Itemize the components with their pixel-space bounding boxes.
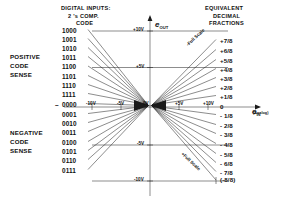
decimal-fraction-9: - 2/8 xyxy=(220,123,233,129)
decimal-fraction-4: +3/8 xyxy=(220,76,233,82)
code-leader-lines xyxy=(88,30,148,170)
digital-inputs-header-line3: CODE xyxy=(76,21,93,27)
decimal-fraction-3: +4/8 xyxy=(220,67,233,73)
digital-code-1111: 1111 xyxy=(62,92,76,98)
digital-code-0011: 0011 xyxy=(62,130,76,136)
negative-code-sense-line3: SENSE xyxy=(10,148,32,154)
zero-code-minus-marker: – xyxy=(55,102,59,108)
x-tick-0v: 0V xyxy=(143,102,149,107)
equivalent-header-line2: DECIMAL xyxy=(213,14,240,20)
digital-code-1001: 1001 xyxy=(62,37,77,43)
equivalent-header-line3: FRACTIONS xyxy=(209,21,244,27)
y-axis-subscript: OUT xyxy=(159,25,168,30)
digital-code-0010: 0010 xyxy=(62,121,77,127)
x-axis-analog-note: (Analog) xyxy=(253,112,268,116)
digital-inputs-header-line1: DIGITAL INPUTS: xyxy=(61,6,111,12)
digital-code-1000: 1000 xyxy=(62,28,77,34)
y-tick-minus5v: -5V xyxy=(137,142,144,147)
digital-code-0100: 0100 xyxy=(62,140,77,146)
positive-code-sense-line1: POSITIVE xyxy=(10,54,40,60)
y-tick-plus10v: +10V xyxy=(133,28,144,33)
equivalent-header-line1: EQUIVALENT xyxy=(205,6,243,12)
digital-code-0110: 0110 xyxy=(62,158,76,164)
negative-code-sense-line2: CODE xyxy=(10,139,29,145)
decimal-fraction-13: - 6/8 xyxy=(220,161,233,167)
x-tick-minus5v: -5V xyxy=(117,102,124,107)
decimal-fraction-8: - 1/8 xyxy=(220,113,233,119)
diagram-root: DIGITAL INPUTS: 2 's COMP. CODE EQUIVALE… xyxy=(0,0,287,202)
digital-code-0111: 0111 xyxy=(62,168,76,174)
digital-code-1110: 1110 xyxy=(62,83,76,89)
decimal-fraction-12: - 5/8 xyxy=(220,152,233,158)
digital-code-1010: 1010 xyxy=(62,46,77,52)
digital-code-0101: 0101 xyxy=(62,149,77,155)
decimal-fraction-5: +2/8 xyxy=(220,85,233,91)
fraction-minus-full-scale: (-8/8) xyxy=(220,177,235,183)
positive-code-sense-line2: CODE xyxy=(10,63,29,69)
decimal-fraction-14: - 7/8 xyxy=(220,170,233,176)
digital-code-0001: 0001 xyxy=(62,112,77,118)
y-tick-plus5v: +5V xyxy=(136,65,144,70)
digital-code-1101: 1101 xyxy=(62,74,76,80)
negative-code-sense-line1: NEGATIVE xyxy=(10,130,43,136)
decimal-fraction-11: - 4/8 xyxy=(220,142,233,148)
digital-code-0000: 0000 xyxy=(62,102,77,108)
decimal-fraction-10: - 3/8 xyxy=(220,132,233,138)
decimal-fraction-0: +7/8 xyxy=(220,38,233,44)
decimal-fraction-6: +1/8 xyxy=(220,94,233,100)
digital-inputs-header-line2: 2 's COMP. xyxy=(68,14,99,20)
decimal-fraction-2: +5/8 xyxy=(220,58,233,64)
x-tick-plus10v: +10V xyxy=(203,102,214,107)
digital-code-1100: 1100 xyxy=(62,64,76,70)
positive-code-sense-line3: SENSE xyxy=(10,72,32,78)
decimal-fraction-1: +6/8 xyxy=(220,48,233,54)
y-axis-arrow xyxy=(148,15,153,21)
y-axis-title: eOUT xyxy=(155,14,168,30)
y-tick-minus10v: -10V xyxy=(134,178,144,183)
decimal-fraction-7: 0 xyxy=(220,104,224,110)
x-tick-plus5v: +5V xyxy=(175,102,183,107)
digital-code-1011: 1011 xyxy=(62,55,76,61)
x-tick-minus10v: -10V xyxy=(86,102,96,107)
